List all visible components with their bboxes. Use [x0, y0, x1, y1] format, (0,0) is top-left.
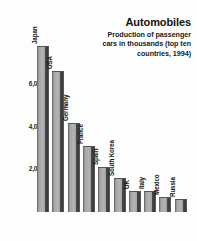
- bar-side-face: [45, 46, 49, 212]
- bar-category-label-text: Russia: [169, 177, 176, 197]
- bar-category-label: Italy: [138, 177, 145, 189]
- bar: Japan: [37, 46, 50, 212]
- bar-category-label: Japan: [31, 26, 38, 43]
- bar: USA: [52, 71, 65, 212]
- bar-side-face: [137, 191, 141, 212]
- bar-side-face: [60, 71, 64, 212]
- bar-category-label-text: Mexico: [153, 175, 160, 195]
- bar-category-label-text: France: [77, 124, 84, 144]
- bar-top-edge: [83, 146, 95, 147]
- bar-category-label: Russia: [169, 177, 176, 197]
- bar: Mexico: [159, 197, 172, 212]
- bar-category-label-text: Japan: [31, 26, 38, 43]
- bar-top-edge: [52, 71, 64, 72]
- bar-top-edge: [175, 199, 187, 200]
- bar: UK: [129, 191, 142, 212]
- bar-category-label: Mexico: [153, 175, 160, 195]
- chart-figure: Automobiles Production of passenger cars…: [0, 0, 197, 241]
- bar-top-edge: [159, 197, 171, 198]
- bar-category-label: USA: [46, 57, 53, 70]
- bar-side-face: [167, 197, 171, 212]
- bar-category-label: Spain: [92, 149, 99, 165]
- bar-category-label: South Korea: [108, 140, 115, 176]
- bar-series: JapanUSAGermanyFranceSpainSouth KoreaUKI…: [37, 33, 191, 212]
- bar-category-label: UK: [123, 180, 130, 189]
- bar-category-label-text: Germany: [62, 94, 69, 120]
- bar-category-label: Germany: [62, 94, 69, 120]
- bar-category-label-text: UK: [123, 180, 130, 189]
- bar: Russia: [175, 199, 188, 212]
- plot-area: 6,0004,0002,000 JapanUSAGermanyFranceSpa…: [0, 0, 197, 241]
- bar-category-label-text: South Korea: [108, 140, 115, 176]
- bar-category-label-text: USA: [46, 57, 53, 70]
- bar-top-edge: [129, 191, 141, 192]
- bar-category-label-text: Spain: [92, 149, 99, 165]
- bar-category-label-text: Italy: [138, 177, 145, 189]
- bar-side-face: [183, 199, 187, 212]
- bar-category-label: France: [77, 124, 84, 144]
- bar-top-edge: [114, 178, 126, 179]
- bar-top-edge: [37, 46, 49, 47]
